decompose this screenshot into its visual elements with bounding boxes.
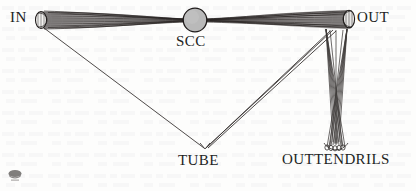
label-in: IN <box>10 9 27 26</box>
label-out: OUT <box>357 9 389 26</box>
figure-canvas: IN SCC OUT TUBE OUTTENDRILS <box>0 0 416 191</box>
scan-logo-watermark <box>6 167 24 183</box>
node-scc <box>183 8 207 32</box>
label-scc: SCC <box>176 33 206 50</box>
label-tube: TUBE <box>178 152 219 169</box>
label-outtendrils: OUTTENDRILS <box>282 151 390 168</box>
